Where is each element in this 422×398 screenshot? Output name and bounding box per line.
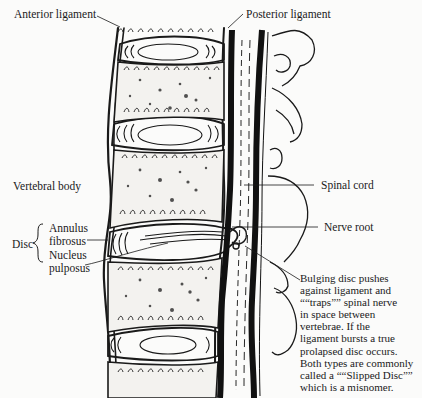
note-line: ligament bursts a true [300, 332, 422, 344]
annulus-line1: Annulus [49, 222, 88, 235]
spinal-canal [220, 30, 268, 398]
label-nucleus-pulposus: Nucleus pulposus [49, 249, 90, 274]
nucleus-line2: pulposus [49, 262, 90, 275]
note-line: in space between [300, 308, 422, 320]
label-anterior-ligament: Anterior ligament [14, 8, 96, 21]
note-line: which is a misnomer. [300, 381, 422, 393]
nucleus-line1: Nucleus [49, 249, 90, 262]
annulus-line2: fibrosus [49, 235, 88, 248]
label-nerve-root: Nerve root [324, 221, 374, 234]
disc-brace [33, 224, 43, 262]
dura-band [251, 30, 262, 398]
note-line: against ligament and [300, 284, 422, 296]
bulging-disc-note: Bulging disc pushes against ligament and… [300, 272, 422, 393]
note-line: ““traps”” spinal nerve [300, 296, 422, 308]
label-vertebral-body: Vertebral body [13, 180, 81, 193]
label-disc: Disc [12, 238, 33, 251]
note-line: Bulging disc pushes [300, 272, 422, 284]
note-line: prolapsed disc occurs. [300, 345, 422, 357]
note-line: called a ““Slipped Disc”” [300, 369, 422, 381]
label-annulus-fibrosus: Annulus fibrosus [49, 222, 88, 247]
note-line: Both types are commonly [300, 357, 422, 369]
leader-nucleus [85, 243, 168, 265]
leader-anterior-ligament [97, 16, 120, 27]
note-line: vertebrae. If the [300, 320, 422, 332]
label-spinal-cord: Spinal cord [321, 179, 374, 192]
nerve-root [230, 227, 246, 249]
leader-posterior-ligament [228, 14, 243, 28]
label-posterior-ligament: Posterior ligament [246, 8, 331, 21]
vertebral-bodies [108, 62, 224, 398]
